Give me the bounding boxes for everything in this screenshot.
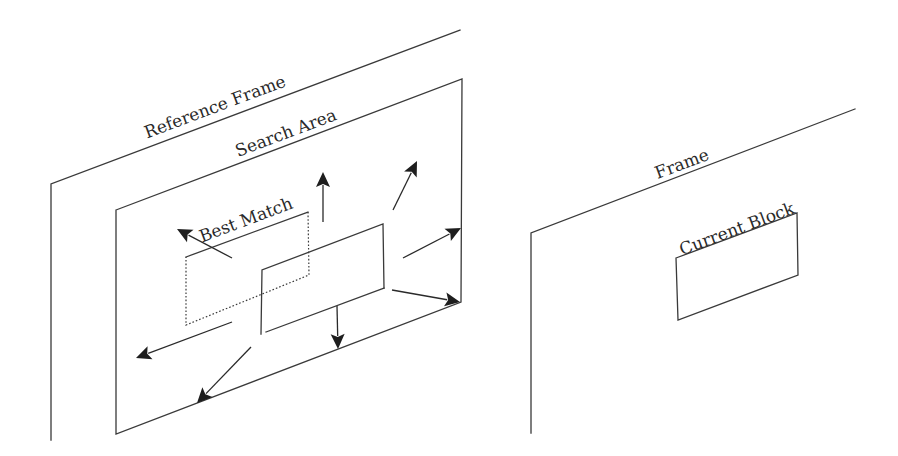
arrow-down-right-icon xyxy=(392,290,460,306)
candidate-block-upper-edges xyxy=(261,224,384,334)
search-direction-arrows xyxy=(136,161,461,403)
motion-estimation-diagram: Reference Frame Search Area Best Match F… xyxy=(0,0,898,456)
arrow-up-right-icon xyxy=(393,161,417,210)
arrow-shaft xyxy=(403,234,449,258)
arrow-shaft xyxy=(393,173,411,210)
arrow-shaft xyxy=(206,347,251,394)
arrow-up-icon xyxy=(316,172,330,222)
arrow-left-icon xyxy=(136,322,232,359)
arrow-shaft xyxy=(337,306,338,336)
candidate-block xyxy=(261,224,384,334)
arrow-right-icon xyxy=(403,228,461,258)
arrowhead-icon xyxy=(177,229,194,242)
arrow-down-left-icon xyxy=(197,347,251,403)
arrowhead-icon xyxy=(316,172,330,187)
candidate-block-bottom-edge xyxy=(266,288,384,332)
arrow-shaft xyxy=(392,290,447,300)
arrow-shaft xyxy=(148,322,232,353)
arrow-down-icon xyxy=(331,306,345,349)
